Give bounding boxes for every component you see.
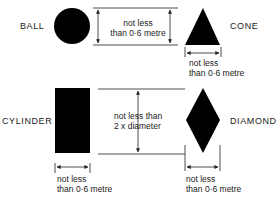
ball-shape [54,8,90,44]
separation-note-line1: not less than [114,111,162,121]
diamond-width-note: not less than 0·6 metre [186,174,241,194]
cylinder-width-dimension [55,163,90,173]
cone-shape [185,8,220,45]
cone-width-dimension [185,47,221,57]
diamond-shape [186,88,220,153]
ball-height-note: not less than 0·6 metre [103,18,173,38]
cylinder-label: CYLINDER [2,116,52,126]
cylinder-width-note-line1: not less [57,174,112,184]
separation-note: not less than 2 x diameter [114,111,162,131]
cone-width-note-line2: than 0·6 metre [189,68,244,78]
cylinder-shape [55,88,90,153]
diamond-width-note-line2: than 0·6 metre [186,184,241,194]
diamond-width-note-line1: not less [186,174,241,184]
ball-height-note-line1: not less [103,18,173,28]
ball-label: BALL [20,21,44,31]
cone-label: CONE [230,21,258,31]
diamond-label: DIAMOND [230,116,277,126]
cone-width-note: not less than 0·6 metre [189,58,244,78]
separation-note-line2: 2 x diameter [114,121,162,131]
cone-width-note-line1: not less [189,58,244,68]
cylinder-width-note-line2: than 0·6 metre [57,184,112,194]
ball-height-note-line2: than 0·6 metre [103,28,173,38]
cylinder-width-note: not less than 0·6 metre [57,174,112,194]
